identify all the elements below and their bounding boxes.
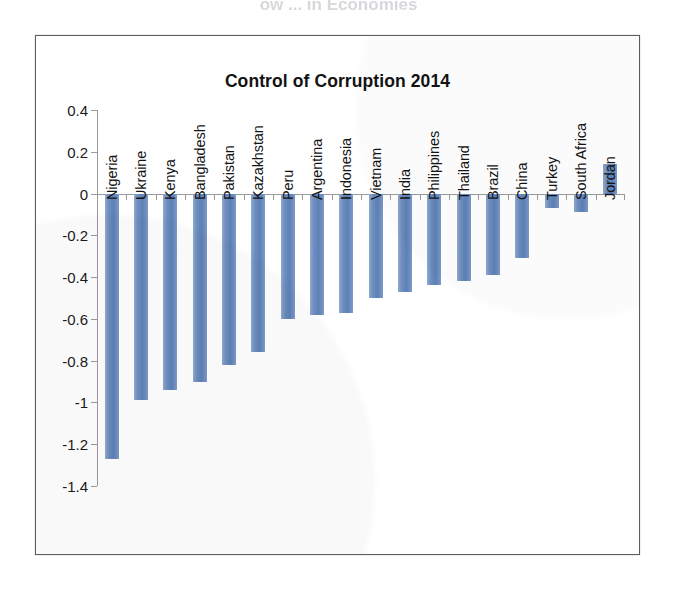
- bar-series: NigeriaUkraineKenyaBangladeshPakistanKaz…: [97, 110, 625, 486]
- category-label: South Africa: [573, 123, 589, 200]
- bar-slot: Indonesia: [332, 110, 361, 486]
- bar[interactable]: [281, 194, 295, 319]
- bar-slot: Ukraine: [126, 110, 155, 486]
- bar-slot: Bangladesh: [185, 110, 214, 486]
- category-label: Vietnam: [368, 147, 384, 199]
- bar[interactable]: [457, 194, 471, 282]
- bar[interactable]: [251, 194, 265, 353]
- category-label: Nigeria: [104, 154, 120, 199]
- bar-slot: China: [508, 110, 537, 486]
- category-label: Turkey: [544, 156, 560, 199]
- bar-slot: Brazil: [478, 110, 507, 486]
- category-label: Argentina: [309, 138, 325, 199]
- category-label: Pakistan: [221, 145, 237, 200]
- bar-slot: Philippines: [420, 110, 449, 486]
- plot-area: 0.40.20-0.2-0.4-0.6-0.8-1-1.2-1.4 Nigeri…: [97, 110, 625, 486]
- bar-slot: Jordan: [596, 110, 625, 486]
- category-label: Kenya: [162, 159, 178, 200]
- bar-slot: Kenya: [156, 110, 185, 486]
- y-axis-tick: [91, 486, 97, 487]
- bar-slot: Pakistan: [214, 110, 243, 486]
- y-axis-tick-label: 0.2: [42, 143, 88, 160]
- category-label: India: [397, 169, 413, 200]
- y-axis-tick-label: -1: [42, 394, 88, 411]
- category-label: China: [514, 162, 530, 199]
- bar-slot: Peru: [273, 110, 302, 486]
- y-axis-tick-label: 0: [42, 185, 88, 202]
- bar-slot: Thailand: [449, 110, 478, 486]
- bar[interactable]: [486, 194, 500, 275]
- y-axis-tick-label: -0.8: [42, 352, 88, 369]
- bar[interactable]: [427, 194, 441, 286]
- y-axis-tick-label: -1.2: [42, 436, 88, 453]
- y-axis-tick-label: 0.4: [42, 102, 88, 119]
- category-label: Brazil: [485, 164, 501, 200]
- bar[interactable]: [369, 194, 383, 298]
- chart-title: Control of Corruption 2014: [36, 71, 639, 92]
- bar-slot: Argentina: [302, 110, 331, 486]
- bar[interactable]: [134, 194, 148, 401]
- chart-frame: Control of Corruption 2014 0.40.20-0.2-0…: [35, 35, 640, 555]
- bar[interactable]: [193, 194, 207, 382]
- bar[interactable]: [515, 194, 529, 259]
- category-label: Jordan: [602, 156, 618, 200]
- bar[interactable]: [163, 194, 177, 390]
- bar-slot: Nigeria: [97, 110, 126, 486]
- bar-slot: Kazakhstan: [244, 110, 273, 486]
- y-axis-tick-label: -1.4: [42, 478, 88, 495]
- bar-slot: Turkey: [537, 110, 566, 486]
- y-axis-tick-label: -0.2: [42, 227, 88, 244]
- bar[interactable]: [310, 194, 324, 315]
- y-axis-tick-label: -0.4: [42, 269, 88, 286]
- bar[interactable]: [339, 194, 353, 313]
- category-label: Kazakhstan: [250, 125, 266, 200]
- y-axis-tick-label: -0.6: [42, 310, 88, 327]
- category-label: Peru: [280, 169, 296, 199]
- category-label: Bangladesh: [192, 124, 208, 200]
- bar-slot: Vietnam: [361, 110, 390, 486]
- cut-off-page-header: ow ... in Economies: [0, 0, 677, 12]
- bar[interactable]: [105, 194, 119, 459]
- bar-slot: South Africa: [566, 110, 595, 486]
- category-label: Thailand: [456, 145, 472, 200]
- category-label: Indonesia: [338, 138, 354, 200]
- bar-slot: India: [390, 110, 419, 486]
- category-label: Ukraine: [133, 150, 149, 199]
- category-label: Philippines: [426, 131, 442, 200]
- bar[interactable]: [398, 194, 412, 292]
- bar[interactable]: [222, 194, 236, 365]
